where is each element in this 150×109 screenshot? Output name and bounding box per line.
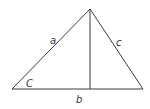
label-angle-C: C [26,78,33,89]
label-side-c: c [116,37,122,48]
side-c-line [90,9,143,89]
label-side-a: a [50,35,56,46]
side-a-line [12,9,90,89]
triangle-diagram: a c b C [0,0,150,109]
label-side-b: b [76,94,82,105]
